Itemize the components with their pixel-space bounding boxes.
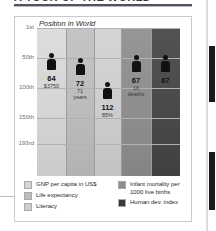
person-icon xyxy=(131,55,142,72)
plot-area: 64 $3750 72 71 years 112 85% 67 16 death… xyxy=(37,28,180,176)
legend-label-mortality-line1: Infant mortality per xyxy=(130,181,180,187)
legend-label-mortality: Infant mortality per 1000 live births xyxy=(130,181,180,196)
bar-column-mortality[interactable] xyxy=(121,28,151,176)
chart-title: Position in World xyxy=(39,19,95,28)
data-marker-gnp[interactable]: 64 $3750 xyxy=(37,53,66,89)
legend-item-gnp[interactable]: GNP per capita in US$ xyxy=(24,181,110,189)
scrollbar-thumb-lower[interactable] xyxy=(209,152,215,210)
data-marker-mortality[interactable]: 67 16 deaths xyxy=(121,55,151,97)
y-tick-193rd: 193rd xyxy=(19,140,34,147)
page-heading-text: A TOUR OF THE WORLD xyxy=(14,0,190,3)
data-marker-hdi[interactable]: 67 xyxy=(151,55,180,85)
person-icon xyxy=(75,58,86,75)
legend-label-life: Life expectancy xyxy=(36,192,78,200)
data-detail-literacy: 85% xyxy=(94,112,121,118)
legend-swatch-gnp xyxy=(24,181,32,189)
heading-divider-shadow xyxy=(14,6,192,7)
data-detail-gnp: $3750 xyxy=(37,83,66,89)
legend-label-mortality-line2: 1000 live births xyxy=(130,189,170,195)
data-rank-mortality: 67 xyxy=(121,77,151,85)
legend-item-life[interactable]: Life expectancy xyxy=(24,192,110,200)
legend-item-mortality[interactable]: Infant mortality per 1000 live births xyxy=(118,181,194,196)
legend-swatch-literacy xyxy=(24,203,32,211)
chart-legend: GNP per capita in US$ Life expectancy Li… xyxy=(24,181,184,215)
legend-swatch-hdi xyxy=(118,199,126,207)
data-detail2-mortality: deaths xyxy=(121,91,151,97)
legend-label-literacy: Literacy xyxy=(36,203,57,211)
y-tick-150th: 150th xyxy=(19,114,34,121)
y-tick-50th: 50th xyxy=(22,54,34,61)
legend-swatch-mortality xyxy=(118,181,126,189)
data-marker-literacy[interactable]: 112 85% xyxy=(94,82,121,118)
legend-label-hdi: Human dev. index xyxy=(130,199,178,207)
legend-column-left: GNP per capita in US$ Life expectancy Li… xyxy=(24,181,110,214)
page-heading: A TOUR OF THE WORLD xyxy=(14,0,190,3)
legend-item-literacy[interactable]: Literacy xyxy=(24,203,110,211)
data-rank-literacy: 112 xyxy=(94,104,121,112)
legend-label-gnp: GNP per capita in US$ xyxy=(36,181,97,189)
legend-swatch-life xyxy=(24,192,32,200)
person-icon xyxy=(46,53,57,70)
data-rank-hdi: 67 xyxy=(151,77,180,85)
data-rank-gnp: 64 xyxy=(37,75,66,83)
legend-item-hdi[interactable]: Human dev. index xyxy=(118,199,194,207)
person-icon xyxy=(160,55,171,72)
gridline-193rd xyxy=(37,144,180,145)
y-tick-1st: 1st xyxy=(26,24,34,31)
gridline-150th xyxy=(37,118,180,119)
page-root: A TOUR OF THE WORLD Position in World 1s… xyxy=(0,0,216,231)
y-axis: 1st 50th 100th 150th 193rd xyxy=(12,24,34,184)
data-detail2-life: years xyxy=(66,94,94,100)
page-edge-mark xyxy=(0,196,14,197)
bar-column-life[interactable] xyxy=(66,28,94,176)
bar-column-gnp[interactable] xyxy=(37,28,66,176)
y-tick-100th: 100th xyxy=(19,84,34,91)
gridline-1st xyxy=(37,28,180,29)
scrollbar-thumb-upper[interactable] xyxy=(209,46,215,102)
legend-column-right: Infant mortality per 1000 live births Hu… xyxy=(118,181,194,210)
data-rank-life: 72 xyxy=(66,80,94,88)
bar-column-hdi[interactable] xyxy=(151,28,180,176)
data-marker-life[interactable]: 72 71 years xyxy=(66,58,94,100)
person-icon xyxy=(102,82,113,99)
scrollbar-track[interactable] xyxy=(207,0,216,231)
